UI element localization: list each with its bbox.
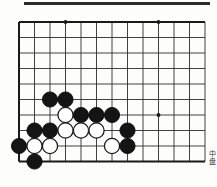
black-stone — [42, 123, 57, 138]
figure-page: 中盘 — [0, 0, 217, 187]
star-point — [157, 20, 161, 24]
go-board[interactable] — [0, 0, 217, 187]
black-stone — [27, 154, 42, 169]
star-point — [64, 20, 68, 24]
star-point — [157, 113, 161, 117]
black-stone — [42, 92, 57, 107]
black-stone — [104, 107, 119, 122]
white-stone — [58, 107, 73, 122]
white-stone — [27, 138, 42, 153]
black-stone — [27, 123, 42, 138]
white-stone — [42, 138, 57, 153]
black-stone — [11, 138, 26, 153]
white-stone — [104, 138, 119, 153]
figure-caption: 中盘 — [202, 150, 216, 166]
black-stone — [89, 107, 104, 122]
white-stone — [73, 123, 88, 138]
black-stone — [120, 123, 135, 138]
white-stone — [89, 123, 104, 138]
black-stone — [120, 138, 135, 153]
white-stone — [58, 123, 73, 138]
black-stone — [73, 107, 88, 122]
black-stone — [58, 92, 73, 107]
go-board-canvas[interactable] — [0, 0, 217, 187]
